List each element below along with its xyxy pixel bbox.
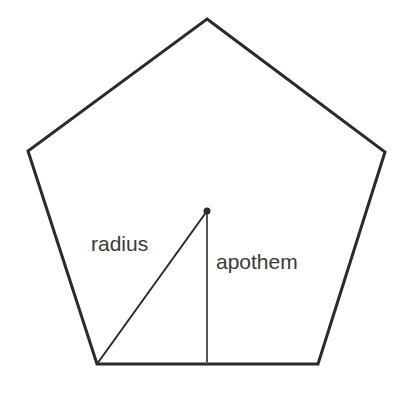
pentagon-diagram: radius apothem — [0, 0, 406, 395]
center-point — [204, 208, 211, 215]
pentagon-figure — [0, 0, 406, 395]
apothem-label: apothem — [216, 251, 298, 272]
radius-label: radius — [91, 233, 148, 254]
